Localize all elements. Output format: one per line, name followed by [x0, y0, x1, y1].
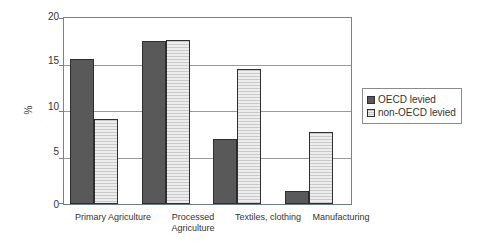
legend-label-oecd: OECD levied — [378, 94, 436, 105]
legend-swatch-icon-oecd — [367, 96, 375, 104]
bar-oecd[interactable] — [285, 191, 309, 204]
bars-layer — [64, 18, 351, 204]
bar-non-oecd[interactable] — [166, 40, 190, 204]
bar-group — [213, 18, 261, 204]
legend-swatch-icon-non-oecd — [367, 109, 375, 117]
bar-non-oecd[interactable] — [94, 119, 118, 204]
bar-oecd[interactable] — [142, 41, 166, 204]
bar-non-oecd[interactable] — [309, 132, 333, 204]
y-tick-0: 0 — [33, 200, 59, 210]
legend: OECD levied non-OECD levied — [362, 88, 462, 124]
bar-oecd[interactable] — [213, 139, 237, 204]
bar-non-oecd[interactable] — [237, 69, 261, 204]
bar-group — [285, 18, 333, 204]
legend-item-oecd[interactable]: OECD levied — [367, 93, 456, 106]
bar-group — [142, 18, 190, 204]
y-tick-15: 15 — [33, 56, 59, 66]
y-axis-tick-labels: 20 15 10 5 0 — [33, 0, 59, 247]
y-tick-10: 10 — [33, 102, 59, 112]
legend-label-non-oecd: non-OECD levied — [378, 107, 456, 118]
bar-group — [70, 18, 118, 204]
y-tick-5: 5 — [33, 147, 59, 157]
y-tick-20: 20 — [33, 12, 59, 22]
bar-chart: % 20 15 10 5 0 Primary Agriculture Proce… — [0, 0, 491, 247]
bar-oecd[interactable] — [70, 59, 94, 204]
legend-item-non-oecd[interactable]: non-OECD levied — [367, 106, 456, 119]
category-label-3: Manufacturing — [296, 212, 386, 223]
plot-area — [63, 17, 352, 205]
